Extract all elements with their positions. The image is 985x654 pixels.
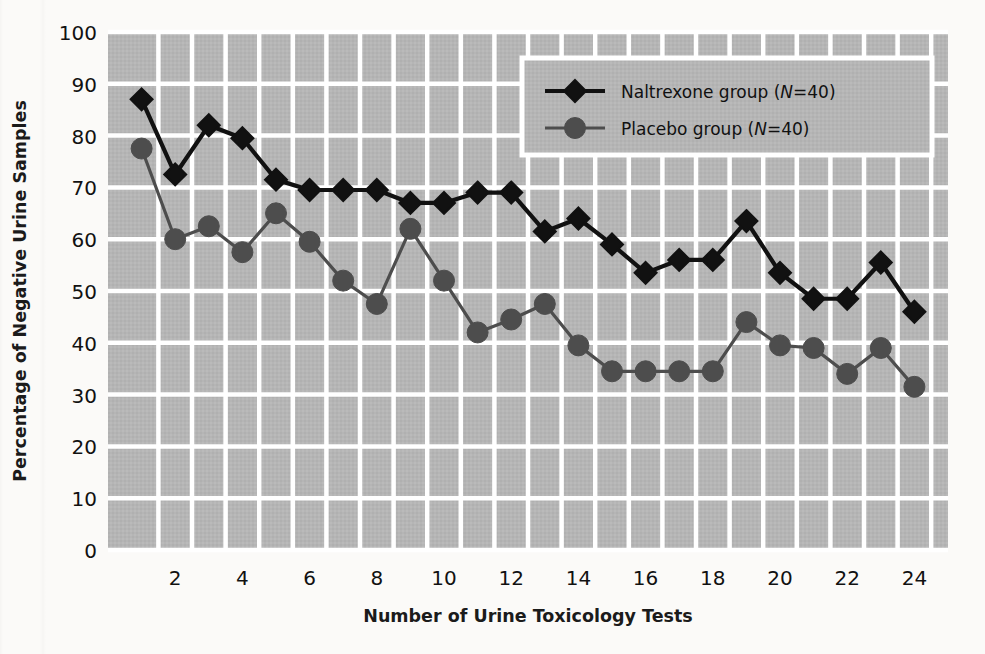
x-tick-label: 8 — [370, 566, 383, 590]
y-axis-title: Percentage of Negative Urine Samples — [10, 100, 30, 482]
data-point-circle — [501, 309, 522, 330]
x-tick-label: 10 — [431, 566, 456, 590]
x-axis-title: Number of Urine Toxicology Tests — [363, 606, 693, 626]
data-point-circle — [333, 270, 354, 291]
data-point-circle — [736, 312, 757, 333]
data-point-circle — [669, 361, 690, 382]
x-tick-label: 22 — [834, 566, 859, 590]
data-point-circle — [770, 335, 791, 356]
y-tick-label: 50 — [72, 280, 97, 304]
data-point-circle — [837, 363, 858, 384]
chart-legend: Naltrexone group (N=40)Placebo group (N=… — [522, 58, 932, 155]
x-tick-label: 6 — [303, 566, 316, 590]
x-tick-label: 16 — [633, 566, 658, 590]
figure-canvas: 0102030405060708090100 24681012141618202… — [0, 0, 985, 654]
data-point-circle — [534, 293, 555, 314]
data-point-circle — [165, 229, 186, 250]
x-tick-label: 14 — [566, 566, 591, 590]
y-tick-label: 90 — [72, 73, 97, 97]
data-point-circle — [467, 322, 488, 343]
y-tick-label: 60 — [72, 228, 97, 252]
y-tick-label: 30 — [72, 384, 97, 408]
data-point-circle — [198, 216, 219, 237]
y-tick-label: 10 — [72, 487, 97, 511]
x-tick-label: 2 — [169, 566, 182, 590]
legend-label: Placebo group (N=40) — [621, 119, 809, 139]
data-point-circle — [870, 337, 891, 358]
data-point-circle — [904, 376, 925, 397]
x-axis-tick-labels: 24681012141618202224 — [169, 566, 927, 590]
x-tick-label: 4 — [236, 566, 249, 590]
data-point-circle — [803, 337, 824, 358]
y-tick-label: 20 — [72, 435, 97, 459]
data-point-circle — [565, 118, 586, 139]
data-point-circle — [702, 361, 723, 382]
legend-label: Naltrexone group (N=40) — [621, 82, 836, 102]
y-tick-label: 40 — [72, 332, 97, 356]
y-tick-label: 70 — [72, 176, 97, 200]
y-tick-label: 80 — [72, 125, 97, 149]
data-point-circle — [366, 293, 387, 314]
data-point-circle — [602, 361, 623, 382]
data-point-circle — [131, 138, 152, 159]
y-tick-label: 100 — [59, 21, 97, 45]
data-point-circle — [232, 242, 253, 263]
data-point-circle — [266, 203, 287, 224]
data-point-circle — [299, 231, 320, 252]
y-tick-label: 0 — [84, 539, 97, 563]
line-chart: 0102030405060708090100 24681012141618202… — [0, 0, 985, 654]
data-point-circle — [568, 335, 589, 356]
x-tick-label: 12 — [498, 566, 523, 590]
x-tick-label: 20 — [767, 566, 792, 590]
legend-background — [522, 58, 932, 155]
data-point-circle — [434, 270, 455, 291]
data-point-circle — [635, 361, 656, 382]
y-axis-tick-labels: 0102030405060708090100 — [59, 21, 97, 563]
data-point-circle — [400, 218, 421, 239]
x-tick-label: 24 — [902, 566, 927, 590]
x-tick-label: 18 — [700, 566, 725, 590]
